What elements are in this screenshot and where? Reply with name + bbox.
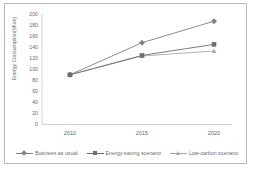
series-business-as-usual — [67, 18, 217, 78]
series-energy-saving-scenario — [68, 42, 217, 77]
plot-area — [0, 0, 254, 169]
series-low-carbon-scenario — [68, 49, 217, 77]
marker-diamond-2020 — [211, 18, 217, 24]
marker-square-2020 — [212, 42, 217, 47]
marker-diamond-2015 — [139, 40, 145, 46]
marker-square-2015 — [140, 53, 145, 58]
legend-item-low-carbon-scenario[interactable]: Low-carbon scenario — [170, 150, 238, 157]
legend-item-energy-saving-scenario[interactable]: Energy-saving scenario — [87, 150, 161, 157]
legend-label: Energy-saving scenario — [106, 150, 161, 156]
legend-diamond-icon — [16, 150, 33, 157]
legend-item-business-as-usual[interactable]: Business as usual — [16, 150, 78, 157]
chart-legend: Business as usual Energy-saving scenario… — [12, 148, 242, 158]
legend-triangle-icon — [170, 150, 187, 157]
legend-label: Business as usual — [35, 150, 78, 156]
marker-square-2010 — [68, 72, 73, 77]
legend-square-icon — [87, 150, 104, 157]
line-chart: Energy Consumption(Mtce) 200 180 160 140… — [0, 0, 254, 169]
legend-label: Low-carbon scenario — [189, 150, 238, 156]
